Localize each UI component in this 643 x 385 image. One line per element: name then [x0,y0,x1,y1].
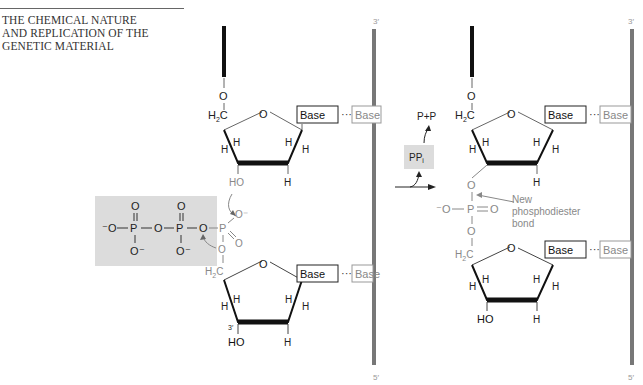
svg-text:H: H [469,144,476,155]
h2c-incoming: H2C [205,266,223,279]
svg-text:H: H [221,144,228,155]
hbond-dots: ··· [341,108,352,120]
h2c-label: H2C [208,109,228,123]
hydroxyl-3prime-right: HO [477,313,494,325]
alpha-double-o: O [235,238,243,249]
svg-text:H: H [533,314,540,325]
prime-5-label: 5′ [373,373,379,382]
ppi-label: PPi [409,152,424,164]
svg-text:O: O [177,200,186,212]
prime-3-label: 3′ [373,17,379,26]
base-label-right: Base [548,109,573,121]
reaction-arrow-icon [428,184,436,190]
partner-base-label-right-bottom: Base [603,244,628,256]
svg-text:H: H [482,137,489,148]
svg-text:H: H [533,177,540,188]
prime-3-marker: 3′ [228,324,234,331]
svg-text:O⁻: O⁻ [130,245,145,257]
prime-5-label-right: 5′ [628,373,634,382]
alpha-phosphorus: P [219,222,226,234]
svg-text:O: O [154,222,163,234]
svg-text:H: H [533,274,540,285]
replication-diagram: 3′ 5′ O H2C O Base ··· Base H H H H HO H… [0,0,643,385]
ring-oxygen: O [259,108,268,120]
svg-text:⁻O: ⁻O [102,222,117,234]
ring-oxygen-right-bottom: O [507,242,516,254]
hbond-dots-right: ··· [589,108,600,120]
svg-text:H: H [221,301,228,312]
svg-text:P: P [176,222,183,234]
hydroxyl-3prime: HO [229,177,244,188]
ring-oxygen-incoming: O [259,258,268,270]
hbond-dots-right-bottom: ··· [589,243,600,255]
partner-base-label: Base [355,109,380,121]
ring-oxygen-right: O [507,108,516,120]
svg-text:H: H [552,281,559,292]
hydroxyl-3prime-incoming: HO [228,336,245,348]
partner-base-label-incoming: Base [355,268,380,280]
svg-text:⁻O: ⁻O [436,203,451,215]
svg-text:H: H [533,137,540,148]
partner-base-label-right: Base [603,109,628,121]
svg-text:P: P [130,222,137,234]
svg-text:P: P [467,203,474,215]
prime-3-label-right: 3′ [628,17,634,26]
new-bond-annotation: New phosphodiester bond [512,194,581,229]
svg-text:New: New [512,194,533,205]
svg-text:H: H [482,274,489,285]
svg-text:phosphodiester: phosphodiester [512,206,581,217]
svg-text:O: O [199,222,208,234]
svg-text:H: H [285,137,292,148]
svg-text:H: H [285,294,292,305]
svg-text:H: H [469,281,476,292]
svg-text:H: H [284,177,291,188]
svg-text:O: O [131,200,140,212]
new-phosphodiester: O ⁻O P O O [436,179,499,246]
svg-text:H: H [284,337,291,348]
hbond-dots-incoming: ··· [341,267,352,279]
svg-text:O: O [467,225,476,237]
svg-text:O: O [467,179,476,191]
o5-label: O [219,90,228,102]
svg-text:O: O [490,203,499,215]
alpha-o-minus: O⁻ [235,209,248,220]
svg-text:H: H [233,137,240,148]
svg-text:H: H [302,301,309,312]
svg-text:H: H [233,294,240,305]
base-label: Base [300,109,325,121]
h2c-right-bottom: H2C [455,249,473,262]
bridge-oxygen: O [218,244,226,255]
o5-right: O [467,90,476,102]
svg-text:H: H [302,144,309,155]
hydrolysis-products: P+P [417,111,437,122]
h2c-right: H2C [455,109,475,123]
svg-text:bond: bond [512,218,534,229]
svg-text:H: H [552,144,559,155]
base-label-right-bottom: Base [548,244,573,256]
svg-text:O⁻: O⁻ [176,245,191,257]
base-label-incoming: Base [300,268,325,280]
